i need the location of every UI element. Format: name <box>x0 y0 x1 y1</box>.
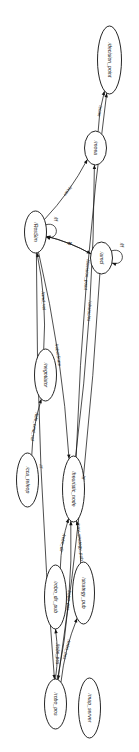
node-label: /map_server <box>86 693 92 723</box>
node-label: /strategy_pub <box>80 576 86 609</box>
graph-node-RosSim[interactable]: /RosSim <box>24 211 46 253</box>
node-label: /RosSim <box>32 221 38 242</box>
edge-label: /decision_point <box>83 258 91 291</box>
graph-node-heuristic_node[interactable]: /heuristic_node <box>62 456 84 522</box>
graph-node-robo_pos[interactable]: /robo_pos <box>44 679 66 729</box>
edge-label: /scan <box>62 184 73 197</box>
graph-node-moea[interactable]: /moea <box>84 131 106 165</box>
node-label: /amcl <box>98 251 104 265</box>
graph-svg: /decision_point/moea/amcl/RosSim/negotia… <box>0 0 139 752</box>
graph-node-decision_point[interactable]: /decision_point <box>97 26 121 94</box>
edge-label: /tf <box>65 240 72 247</box>
graph-node-negotiator[interactable]: /negotiator <box>34 349 56 401</box>
node-label: /negotiator <box>42 362 48 388</box>
edge-label: /obstacles <box>86 300 92 323</box>
graph-stage: /decision_point/moea/amcl/RosSim/negotia… <box>0 0 139 752</box>
edge-label: /tele_cmd_vel <box>29 411 39 442</box>
edge-label: /scan <box>96 104 103 117</box>
nodes-layer: /decision_point/moea/amcl/RosSim/negotia… <box>16 26 121 738</box>
graph-edge <box>44 159 87 219</box>
node-label: /moea <box>92 140 98 156</box>
graph-node-strategy_pub[interactable]: /strategy_pub <box>72 562 94 624</box>
node-label: /robo_dir_pub <box>52 580 58 613</box>
node-label: /decision_point <box>106 42 112 78</box>
graph-node-map_server[interactable]: /map_server <box>78 678 100 738</box>
node-label: /cca_teleop <box>24 466 30 494</box>
node-label: /robo_pos <box>52 691 58 716</box>
graph-node-robo_dir_pub[interactable]: /robo_dir_pub <box>44 565 66 629</box>
graph-node-amcl[interactable]: /amcl <box>90 242 112 274</box>
edge-label: /cmd_vel <box>40 290 46 311</box>
edge-label: /tf <box>53 216 58 222</box>
node-label: /heuristic_node <box>70 470 76 506</box>
ros-node-graph: /decision_point/moea/amcl/RosSim/negotia… <box>0 0 139 752</box>
edge-label: /robo_pos <box>54 643 59 665</box>
edge-label: /robo_dir <box>58 533 66 553</box>
edge-label: /tf <box>119 242 124 248</box>
edge-label: /tf <box>38 463 43 469</box>
graph-node-cca_teleop[interactable]: /cca_teleop <box>16 453 38 507</box>
